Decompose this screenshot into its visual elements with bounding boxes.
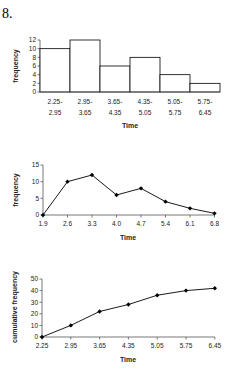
cumulative-frequency-chart: 01020304050cumulative frequency2.252.953… [0, 245, 240, 385]
histogram-bar [100, 66, 130, 92]
x-tick-label: 2.95 [64, 342, 77, 349]
x-axis-title: Time [120, 234, 136, 241]
x-tick-label: 4.35 [122, 342, 135, 349]
y-tick-label: 8 [32, 54, 36, 61]
y-tick-label: 0 [34, 333, 38, 340]
x-tick-label: 4.35 [109, 109, 122, 116]
x-tick-label: 3.65 [79, 109, 92, 116]
y-tick-label: 50 [31, 275, 39, 282]
x-tick-label: 4.7 [136, 220, 145, 227]
x-tick-label: 5.4 [161, 220, 170, 227]
x-tick-label: 6.8 [210, 220, 219, 227]
x-tick-label: 3.3 [87, 220, 96, 227]
x-tick-label: 2.6 [63, 220, 72, 227]
data-point-marker [126, 302, 130, 306]
y-tick-label: 6 [32, 62, 36, 69]
y-tick-label: 10 [31, 322, 39, 329]
data-point-marker [213, 286, 217, 290]
x-tick-label: 6.1 [185, 220, 194, 227]
y-tick-label: 0 [32, 88, 36, 95]
x-tick-label: 6.45 [208, 342, 221, 349]
x-tick-label: 2.25 [36, 342, 49, 349]
x-tick-label: 3.65- [108, 98, 123, 105]
x-tick-label: 5.75 [169, 109, 182, 116]
y-tick-label: 5 [35, 195, 39, 202]
data-point-marker [184, 288, 188, 292]
data-point-marker [155, 293, 159, 297]
y-tick-label: 0 [35, 211, 39, 218]
x-tick-label: 6.45 [199, 109, 212, 116]
histogram-chart: 024681012frequency2.25-2.952.95-3.653.65… [0, 0, 240, 135]
y-tick-label: 4 [32, 71, 36, 78]
histogram-bar [190, 83, 220, 92]
x-axis-title: Time [122, 122, 138, 129]
data-point-marker [69, 323, 73, 327]
x-tick-label: 2.95 [49, 109, 62, 116]
histogram-bar [70, 40, 100, 92]
y-tick-label: 30 [31, 299, 39, 306]
data-point-marker [188, 206, 192, 210]
x-tick-label: 5.75- [198, 98, 213, 105]
y-tick-label: 20 [31, 310, 39, 317]
data-point-marker [40, 335, 44, 339]
x-tick-label: 5.05 [151, 342, 164, 349]
y-tick-label: 40 [31, 287, 39, 294]
y-tick-label: 15 [32, 161, 40, 168]
histogram-bar [130, 57, 160, 92]
histogram-bar [160, 75, 190, 92]
x-axis-title: Time [120, 356, 136, 363]
x-tick-label: 4.0 [112, 220, 121, 227]
x-tick-label: 1.9 [38, 220, 47, 227]
data-point-marker [163, 199, 167, 203]
data-line [42, 288, 215, 337]
x-tick-label: 2.95- [78, 98, 93, 105]
x-tick-label: 4.35- [138, 98, 153, 105]
y-tick-label: 10 [32, 178, 40, 185]
x-tick-label: 5.75 [180, 342, 193, 349]
x-tick-label: 2.25- [48, 98, 63, 105]
x-tick-label: 5.05 [139, 109, 152, 116]
x-tick-label: 5.05- [168, 98, 183, 105]
x-tick-label: 3.65 [93, 342, 106, 349]
data-point-marker [97, 309, 101, 313]
y-axis-title: frequency [12, 49, 20, 83]
y-axis-title: frequency [12, 173, 20, 207]
y-tick-label: 2 [32, 80, 36, 87]
data-point-marker [139, 186, 143, 190]
histogram-bar [40, 49, 70, 92]
frequency-polygon-chart: 051015frequency1.92.63.34.04.75.46.16.8T… [0, 135, 240, 245]
y-tick-label: 12 [29, 36, 37, 43]
y-axis-title: cumulative frequency [11, 271, 19, 343]
y-tick-label: 10 [29, 45, 37, 52]
